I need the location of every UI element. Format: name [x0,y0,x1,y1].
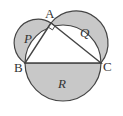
label-r: R [57,76,66,91]
label-c: C [103,59,112,74]
label-q: Q [80,25,90,40]
geometry-diagram: A B C P Q R [0,0,123,116]
label-p: P [23,31,32,46]
label-a: A [45,6,55,21]
label-b: B [14,60,23,75]
